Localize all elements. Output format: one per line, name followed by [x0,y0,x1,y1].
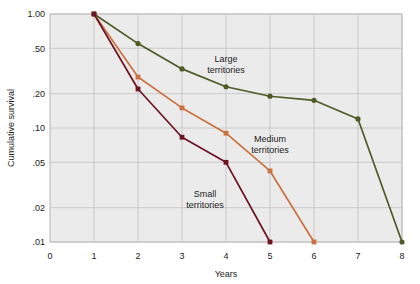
y-axis-title: Cumulative survival [6,89,16,167]
series-marker [136,75,141,80]
series-annotation-line: territories [251,145,289,155]
y-tick-label: 1.00 [27,9,45,19]
series-marker [180,135,185,140]
chart-canvas: 1.00.50.20.10.05.02.01 012345678 Cumulat… [0,0,420,284]
x-axis-title: Years [215,269,238,279]
series-marker [399,239,404,244]
y-tick-label: .05 [32,158,45,168]
x-tick-label: 1 [91,251,96,261]
y-tick-label: .10 [32,123,45,133]
series-marker [355,116,360,121]
survival-chart-figure: 1.00.50.20.10.05.02.01 012345678 Cumulat… [0,0,420,284]
x-tick-label: 2 [135,251,140,261]
series-marker [92,12,97,17]
series-marker [224,160,229,165]
series-annotation-line: Medium [254,134,286,144]
x-tick-label: 3 [179,251,184,261]
y-tick-label: .01 [32,237,45,247]
x-tick-label: 0 [47,251,52,261]
series-annotation-line: territories [207,65,245,75]
x-tick-label: 5 [267,251,272,261]
series-annotation-line: Small [194,189,217,199]
y-tick-label: .20 [32,89,45,99]
series-marker [224,131,229,136]
y-tick-label: .50 [32,44,45,54]
series-marker [180,106,185,111]
x-axis-tick-labels: 012345678 [47,251,404,261]
x-tick-label: 4 [223,251,228,261]
series-marker [311,98,316,103]
series-marker [136,87,141,92]
series-marker [223,84,228,89]
x-tick-label: 6 [311,251,316,261]
series-marker [268,240,273,245]
series-annotation-line: Large [214,54,237,64]
y-axis-tick-labels: 1.00.50.20.10.05.02.01 [27,9,45,247]
series-annotation-line: territories [186,200,224,210]
x-tick-label: 7 [355,251,360,261]
y-tick-label: .02 [32,203,45,213]
series-marker [179,66,184,71]
series-marker [267,94,272,99]
series-marker [312,240,317,245]
x-tick-label: 8 [399,251,404,261]
series-marker [135,41,140,46]
series-marker [268,169,273,174]
